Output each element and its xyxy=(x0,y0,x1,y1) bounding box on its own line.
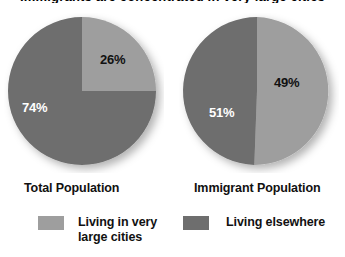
pie-immigrant-dark-percent: 51% xyxy=(209,105,234,120)
pie-total-dark-percent: 74% xyxy=(22,100,47,115)
pie-slice-living-elsewhere xyxy=(183,17,257,165)
figure-title-text: Immigrants are concentrated in very larg… xyxy=(0,0,345,3)
legend-item-living-elsewhere: Living elsewhere xyxy=(183,216,333,236)
pie-immigrant-population-caption: Immigrant Population xyxy=(194,181,320,195)
pie-immigrant-light-percent: 49% xyxy=(274,75,299,90)
pie-total-light-percent: 26% xyxy=(100,52,125,67)
legend-label-line-1: Living in very xyxy=(78,215,157,230)
legend-swatch-living-elsewhere xyxy=(183,216,209,230)
pie-total-population-svg xyxy=(4,13,164,173)
pie-total-population-caption: Total Population xyxy=(24,181,119,195)
legend-item-very-large-cities: Living in very large cities xyxy=(38,216,158,252)
figure-title-clipped: Immigrants are concentrated in very larg… xyxy=(0,0,345,3)
pie-immigrant-population-svg xyxy=(179,13,339,173)
legend-swatch-very-large-cities xyxy=(38,216,64,230)
legend-label-very-large-cities: Living in very large cities xyxy=(78,215,157,244)
legend-label-line-1: Living elsewhere xyxy=(226,215,325,230)
legend-label-living-elsewhere: Living elsewhere xyxy=(226,215,325,230)
legend-label-line-2: large cities xyxy=(78,230,157,245)
pie-chart-total-population: 26% 74% xyxy=(4,13,164,173)
pie-chart-figure: Immigrants are concentrated in very larg… xyxy=(0,0,345,257)
pie-slice-very-large-cities xyxy=(254,17,328,165)
pie-chart-immigrant-population: 49% 51% xyxy=(179,13,339,173)
